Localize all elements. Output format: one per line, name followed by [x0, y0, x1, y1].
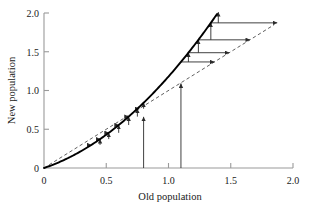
y-axis-ticks	[44, 13, 49, 129]
x-tick-label-3: 1.5	[225, 175, 238, 186]
x-axis-title: Old population	[138, 191, 202, 202]
y-tick-label-0: 0	[34, 163, 39, 174]
cobweb-arrows-group	[91, 12, 277, 168]
map-curve	[44, 14, 217, 168]
y-axis-title: New population	[6, 56, 17, 124]
identity-line-group	[44, 25, 274, 168]
y-tick-label-4: 2.0	[27, 8, 40, 19]
map-curve-group	[44, 14, 217, 168]
y-tick-label-3: 1.5	[27, 47, 40, 58]
cobweb-plot-figure: 2.0 1.5 1.0 0.5 0 0 0.5 1.0 1.5 2.0 Old …	[0, 0, 311, 205]
chart-canvas: 2.0 1.5 1.0 0.5 0 0 0.5 1.0 1.5 2.0 Old …	[0, 0, 311, 205]
x-tick-label-2: 1.0	[162, 175, 175, 186]
identity-line	[44, 25, 274, 168]
y-tick-label-1: 0.5	[27, 124, 40, 135]
x-tick-label-0: 0	[42, 175, 47, 186]
x-tick-label-1: 0.5	[100, 175, 113, 186]
x-axis-ticks	[106, 163, 293, 168]
y-tick-label-2: 1.0	[27, 85, 40, 96]
x-tick-label-4: 2.0	[287, 175, 300, 186]
